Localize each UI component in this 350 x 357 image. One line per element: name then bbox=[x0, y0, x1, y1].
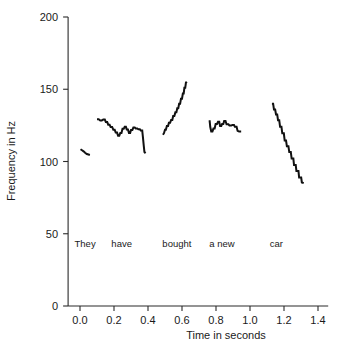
word-annotation: car bbox=[270, 238, 283, 249]
word-annotation: a new bbox=[209, 238, 234, 249]
y-axis-ticks: 050100150200 bbox=[40, 11, 68, 312]
word-annotation: bought bbox=[162, 238, 191, 249]
axes-group bbox=[68, 17, 328, 306]
x-tick-label: 0.8 bbox=[208, 314, 223, 326]
y-tick-label: 200 bbox=[40, 11, 58, 23]
f0-contour-segment bbox=[81, 149, 90, 155]
y-tick-label: 100 bbox=[40, 156, 58, 168]
x-axis-ticks: 0.00.20.40.60.81.01.21.4 bbox=[72, 306, 325, 326]
x-tick-label: 1.2 bbox=[276, 314, 291, 326]
x-tick-label: 1.0 bbox=[242, 314, 257, 326]
f0-contour-segment bbox=[272, 104, 304, 183]
pitch-contour-figure: 050100150200 0.00.20.40.60.81.01.21.4 Th… bbox=[0, 0, 350, 357]
x-tick-label: 0.4 bbox=[140, 314, 155, 326]
x-tick-label: 0.2 bbox=[106, 314, 121, 326]
x-tick-label: 0.0 bbox=[72, 314, 87, 326]
word-annotation: have bbox=[111, 238, 132, 249]
word-annotation: They bbox=[75, 238, 96, 249]
f0-contour-group bbox=[81, 82, 304, 183]
y-tick-label: 0 bbox=[52, 300, 58, 312]
x-tick-label: 0.6 bbox=[174, 314, 189, 326]
chart-canvas: 050100150200 0.00.20.40.60.81.01.21.4 Th… bbox=[0, 0, 350, 357]
y-tick-label: 50 bbox=[46, 228, 58, 240]
x-tick-label: 1.4 bbox=[310, 314, 325, 326]
x-axis-title: Time in seconds bbox=[186, 329, 266, 341]
f0-contour-segment bbox=[97, 119, 146, 153]
y-tick-label: 150 bbox=[40, 83, 58, 95]
f0-contour-segment bbox=[163, 82, 187, 135]
y-axis-title: Frequency in Hz bbox=[5, 121, 17, 201]
f0-contour-segment bbox=[209, 121, 241, 131]
word-annotation-group: Theyhaveboughta newcar bbox=[75, 238, 283, 249]
